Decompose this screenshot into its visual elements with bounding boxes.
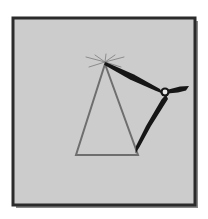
figure-canvas <box>0 0 208 219</box>
figure-root <box>0 0 208 219</box>
panel-border <box>13 18 195 205</box>
pivot-hole-icon <box>163 90 168 95</box>
